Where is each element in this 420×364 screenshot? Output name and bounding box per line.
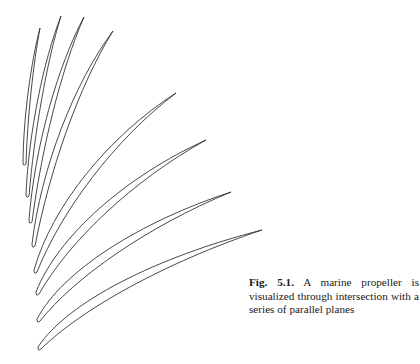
blade-section-7 [37, 192, 231, 322]
blade-section-6 [36, 140, 206, 295]
figure-label: Fig. 5.1. [249, 276, 294, 288]
blade-section-5 [34, 93, 176, 273]
blade-section-4 [32, 31, 113, 247]
blade-section-2 [26, 16, 61, 197]
figure-caption: Fig. 5.1. A marine propeller is visualiz… [249, 276, 419, 317]
blade-section-1 [23, 28, 40, 165]
blade-section-3 [29, 17, 84, 223]
